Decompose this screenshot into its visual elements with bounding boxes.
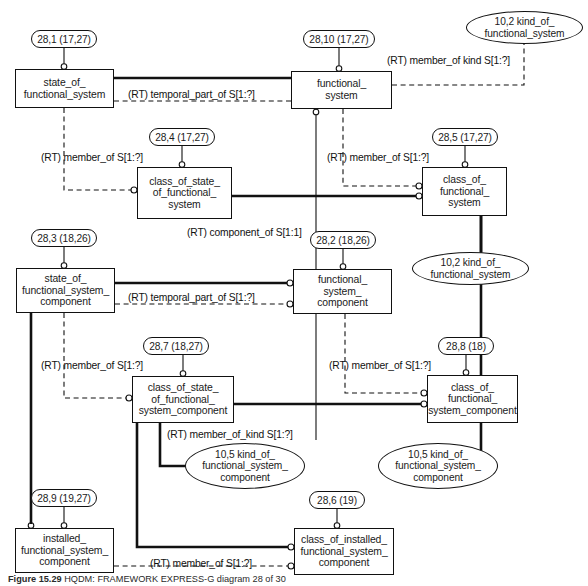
oval-kind-of-fs-component-left[interactable]: 10,5 kind_of_ functional_system_ compone… [185, 443, 305, 489]
entity-class-of-functional-system[interactable]: class_of_ functional_ system [422, 167, 507, 216]
id-pill-28-4: 28,4 (17,27) [149, 128, 215, 146]
id-pill-28-3: 28,3 (18,26) [31, 229, 97, 247]
id-pill-28-1: 28,1 (17,27) [31, 30, 97, 48]
entity-class-of-functional-system-component[interactable]: class_of_ functional_ system_component [427, 375, 518, 423]
relationship-label-temporal-part-of-2: (RT) temporal_part_of S[1:?] [128, 292, 255, 303]
entity-functional-system[interactable]: functional_ system [291, 71, 392, 109]
oval-kind-of-functional-system-mid[interactable]: 10,2 kind_of_ functional_system [412, 252, 529, 285]
relationship-label-member-of-2: (RT) member_of S[1:?] [327, 152, 429, 163]
relationship-label-member-of-5: (RT) member_of S[1:?] [150, 558, 252, 569]
entity-installed-functional-system-component[interactable]: installed_ functional_system_ component [15, 528, 114, 573]
entity-class-of-installed-fs-component[interactable]: class_of_installed_ functional_system_ c… [294, 528, 394, 575]
oval-kind-of-functional-system-top[interactable]: 10,2 kind_of_ functional_system [466, 11, 583, 44]
relationship-label-member-of-kind-2: (RT) member_of_kind S[1:?] [167, 429, 293, 440]
relationship-label-component-of: (RT) component_of S[1:1] [187, 227, 302, 238]
id-pill-28-2: 28,2 (18,26) [310, 231, 376, 249]
id-pill-28-5: 28,5 (17,27) [432, 128, 498, 146]
id-pill-28-9: 28,9 (19,27) [31, 489, 97, 507]
figure-caption-number: 15.29 [39, 574, 62, 584]
relationship-label-member-of-kind-1: (RT) member_of kind S[1:?] [387, 55, 510, 66]
entity-class-of-state-of-functional-system[interactable]: class_of_state_ of_functional_ system [137, 167, 232, 219]
figure-caption: Figure 15.29 HQDM: FRAMEWORK EXPRESS-G d… [8, 574, 583, 584]
figure-caption-text: HQDM: FRAMEWORK EXPRESS-G diagram 28 of … [64, 574, 286, 584]
entity-functional-system-component[interactable]: functional_ system_ component [293, 269, 392, 314]
entity-class-of-state-of-fs-component[interactable]: class_of_state_ of_functional_ system_co… [132, 376, 234, 423]
figure-caption-word: Figure [8, 574, 36, 584]
entity-state-of-functional-system-component[interactable]: state_of_ functional_system_ component [16, 268, 115, 313]
relationship-label-temporal-part-of-1: (RT) temporal_part_of S[1:?] [128, 89, 255, 100]
id-pill-28-7: 28,7 (18,27) [143, 337, 209, 355]
oval-kind-of-fs-component-right[interactable]: 10,5 kind_of_ functional_system_ compone… [378, 443, 498, 489]
id-pill-28-8: 28,8 (18) [438, 337, 494, 355]
relationship-label-member-of-1: (RT) member_of S[1:?] [41, 152, 143, 163]
entity-state-of-functional-system[interactable]: state_of_ functional_system [15, 69, 114, 108]
id-pill-28-6: 28,6 (19) [309, 491, 365, 509]
id-pill-28-10: 28,10 (17,27) [303, 30, 375, 48]
diagram-canvas: state_of_ functional_system functional_ … [0, 0, 588, 586]
relationship-label-member-of-4: (RT) member_of S[1:?] [329, 360, 431, 371]
relationship-label-member-of-3: (RT) member_of S[1:?] [41, 360, 143, 371]
